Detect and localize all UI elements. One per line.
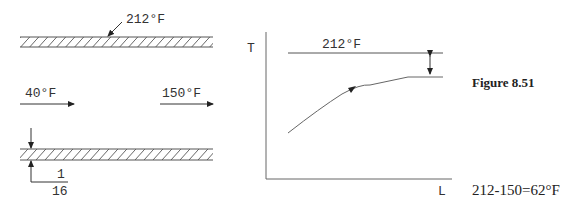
y-axis-label: T	[247, 41, 255, 56]
wall-thickness-denominator: 16	[52, 184, 68, 199]
x-axis-label: L	[438, 184, 446, 199]
wall-temperature-label: 212°F	[126, 12, 165, 27]
pipe-top-wall	[20, 37, 213, 47]
wall-temperature-leader-arrow	[108, 22, 122, 36]
curve-direction-arrow-icon	[348, 86, 356, 93]
figure-caption: Figure 8.51	[472, 75, 535, 90]
result-equation: 212-150=62°F	[472, 182, 560, 198]
figure-canvas: 212°F 40°F 150°F 1 16 T L 212°F	[0, 0, 575, 210]
wall-thickness-numerator: 1	[57, 167, 65, 182]
pipe-bottom-wall	[20, 149, 213, 160]
inlet-temperature-label: 40°F	[25, 86, 56, 101]
pipe-diagram: 212°F 40°F 150°F 1 16	[20, 12, 213, 199]
outlet-temperature-label: 150°F	[162, 86, 201, 101]
fluid-temperature-curve	[288, 77, 443, 133]
temperature-length-graph: T L 212°F	[247, 32, 452, 199]
wall-temperature-line-label: 212°F	[322, 37, 361, 52]
